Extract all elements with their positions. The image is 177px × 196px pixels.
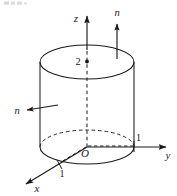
- cylinder-diagram-svg: z y 1 1 x O 2 n: [0, 0, 177, 196]
- x-axis-label: x: [34, 182, 40, 194]
- y-tick-label-1: 1: [136, 132, 141, 143]
- height-marker: [85, 60, 89, 64]
- z-axis-label: z: [73, 12, 79, 24]
- normal-side-label: n: [14, 105, 19, 116]
- y-axis-label: y: [165, 149, 171, 161]
- x-tick-label-1: 1: [60, 168, 65, 179]
- cylinder-figure: z y 1 1 x O 2 n: [0, 0, 177, 196]
- origin-label: O: [81, 147, 89, 159]
- scan-artifact: [4, 2, 27, 5]
- normal-top-label: n: [114, 7, 119, 18]
- x-axis: [26, 147, 87, 184]
- height-label-2: 2: [75, 56, 80, 67]
- normal-vector-side: [27, 105, 58, 110]
